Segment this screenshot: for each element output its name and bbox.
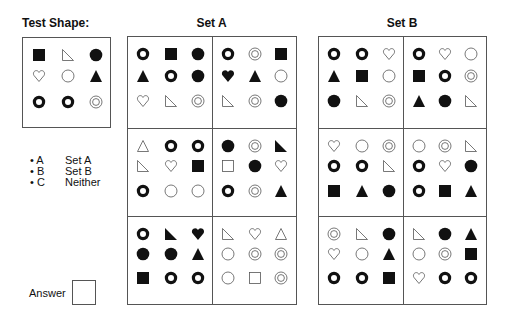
- triangle-filled-icon: [412, 94, 426, 108]
- circle-outline-icon: [412, 139, 426, 153]
- set-b-panel: [319, 129, 404, 217]
- set-a-title: Set A: [127, 16, 296, 30]
- triangle-filled-icon: [464, 184, 478, 198]
- heart-outline-icon: [274, 159, 288, 173]
- right-triangle-outline-icon: [412, 227, 426, 241]
- right-triangle-outline-icon: [136, 159, 150, 173]
- legend: • ASet A • BSet B • CNeither: [30, 155, 130, 188]
- ring-icon: [355, 159, 369, 173]
- double-circle-icon: [464, 69, 478, 83]
- ring-icon: [412, 159, 426, 173]
- square-filled-icon: [191, 159, 205, 173]
- right-triangle-outline-icon: [61, 48, 75, 62]
- square-filled-icon: [355, 69, 369, 83]
- circle-filled-icon: [438, 227, 452, 241]
- circle-outline-icon: [221, 271, 235, 285]
- answer-input[interactable]: [72, 280, 96, 305]
- ring-icon: [136, 47, 150, 61]
- square-outline-icon: [248, 271, 262, 285]
- circle-filled-icon: [221, 139, 235, 153]
- set-a-panel: [128, 37, 213, 129]
- triangle-filled-icon: [191, 247, 205, 261]
- ring-icon: [327, 159, 341, 173]
- right-triangle-outline-icon: [464, 94, 478, 108]
- triangle-filled-icon: [136, 69, 150, 83]
- double-circle-icon: [382, 94, 396, 108]
- ring-icon: [32, 95, 46, 109]
- legend-item-c: • CNeither: [30, 177, 130, 188]
- circle-filled-icon: [274, 94, 288, 108]
- square-filled-icon: [464, 247, 478, 261]
- right-triangle-outline-icon: [355, 94, 369, 108]
- double-circle-icon: [248, 247, 262, 261]
- ring-icon: [191, 139, 205, 153]
- heart-outline-icon: [248, 227, 262, 241]
- right-triangle-outline-icon: [221, 94, 235, 108]
- circle-filled-icon: [191, 47, 205, 61]
- heart-outline-icon: [136, 94, 150, 108]
- circle-filled-icon: [382, 184, 396, 198]
- right-triangle-filled-icon: [164, 227, 178, 241]
- circle-filled-icon: [248, 159, 262, 173]
- double-circle-icon: [274, 271, 288, 285]
- square-outline-icon: [221, 159, 235, 173]
- square-filled-icon: [164, 47, 178, 61]
- ring-icon: [327, 47, 341, 61]
- double-circle-icon: [191, 94, 205, 108]
- right-triangle-outline-icon: [164, 94, 178, 108]
- circle-outline-icon: [164, 184, 178, 198]
- double-circle-icon: [274, 247, 288, 261]
- triangle-filled-icon: [248, 69, 262, 83]
- set-a-frame: [127, 36, 297, 305]
- set-b-panel: [319, 37, 404, 129]
- right-triangle-filled-icon: [274, 139, 288, 153]
- legend-key: • C: [30, 177, 45, 188]
- ring-icon: [191, 271, 205, 285]
- square-filled-icon: [274, 47, 288, 61]
- heart-outline-icon: [327, 247, 341, 261]
- heart-outline-icon: [164, 159, 178, 173]
- heart-outline-icon: [327, 139, 341, 153]
- circle-outline-icon: [221, 247, 235, 261]
- heart-outline-icon: [412, 271, 426, 285]
- ring-icon: [412, 47, 426, 61]
- ring-icon: [412, 184, 426, 198]
- circle-outline-icon: [464, 47, 478, 61]
- heart-outline-icon: [438, 47, 452, 61]
- double-circle-icon: [438, 139, 452, 153]
- square-filled-icon: [412, 69, 426, 83]
- set-b-frame: [318, 36, 487, 305]
- ring-icon: [221, 47, 235, 61]
- right-triangle-outline-icon: [221, 227, 235, 241]
- double-circle-icon: [382, 139, 396, 153]
- right-triangle-outline-icon: [355, 227, 369, 241]
- double-circle-icon: [248, 139, 262, 153]
- right-triangle-outline-icon: [382, 159, 396, 173]
- triangle-filled-icon: [464, 227, 478, 241]
- triangle-outline-icon: [136, 139, 150, 153]
- double-circle-icon: [248, 184, 262, 198]
- set-b-panel: [319, 217, 404, 304]
- square-filled-icon: [382, 271, 396, 285]
- circle-outline-icon: [355, 247, 369, 261]
- double-circle-icon: [248, 94, 262, 108]
- circle-outline-icon: [61, 69, 75, 83]
- circle-filled-icon: [89, 48, 103, 62]
- circle-filled-icon: [327, 94, 341, 108]
- set-b-title: Set B: [318, 16, 486, 30]
- circle-filled-icon: [438, 94, 452, 108]
- square-filled-icon: [32, 48, 46, 62]
- circle-outline-icon: [274, 69, 288, 83]
- set-a-panel: [128, 129, 213, 217]
- ring-icon: [61, 95, 75, 109]
- circle-filled-icon: [136, 247, 150, 261]
- circle-outline-icon: [412, 247, 426, 261]
- right-triangle-outline-icon: [464, 139, 478, 153]
- ring-icon: [221, 184, 235, 198]
- set-a-panel: [128, 217, 213, 304]
- set-a-panel: [213, 37, 296, 129]
- ring-icon: [355, 47, 369, 61]
- double-circle-icon: [327, 227, 341, 241]
- set-a-panel: [213, 129, 296, 217]
- circle-outline-icon: [382, 69, 396, 83]
